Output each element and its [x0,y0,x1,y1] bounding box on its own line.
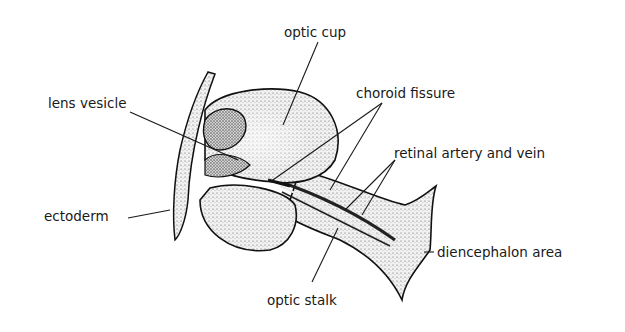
optic-cup-lower [200,185,296,250]
label-optic-stalk: optic stalk [267,292,337,308]
leader-optic-stalk [312,228,338,282]
optic-cup-illustration: optic cup lens vesicle choroid fissure r… [0,0,625,332]
leader-ectoderm [128,210,170,218]
label-ectoderm: ectoderm [44,208,109,224]
label-diencephalon-area: diencephalon area [437,244,562,260]
label-choroid-fissure: choroid fissure [356,85,455,101]
label-optic-cup: optic cup [284,24,346,40]
optic-stalk-shape [275,170,436,300]
label-lens-vesicle: lens vesicle [48,95,127,111]
label-retinal-artery-and-vein: retinal artery and vein [394,145,545,161]
diagram-canvas: optic cup lens vesicle choroid fissure r… [0,0,625,332]
